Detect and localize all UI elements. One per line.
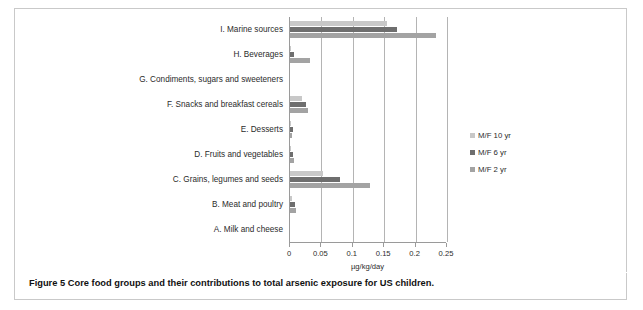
category-band xyxy=(290,92,446,117)
bar xyxy=(290,108,308,113)
axis-tick xyxy=(352,243,353,247)
category-label: E. Desserts xyxy=(25,125,283,134)
bar xyxy=(290,146,291,151)
legend-label: M/F 10 yr xyxy=(478,131,511,140)
category-band xyxy=(290,217,446,242)
axis-tick xyxy=(446,243,447,247)
category-label: D. Fruits and vegetables xyxy=(25,150,283,159)
axis-tick-label: 0.25 xyxy=(439,249,454,258)
category-band xyxy=(290,42,446,67)
bar xyxy=(290,171,323,176)
bar xyxy=(290,202,295,207)
axis-tick-label: 0.15 xyxy=(376,249,391,258)
chart-area: I. Marine sourcesH. BeveragesG. Condimen… xyxy=(15,9,628,267)
caption-text: Core food groups and their contributions… xyxy=(68,278,434,288)
bar xyxy=(290,208,296,213)
axis-tick xyxy=(415,243,416,247)
axis-title: µg/kg/day xyxy=(289,262,446,271)
bar xyxy=(290,183,370,188)
category-band xyxy=(290,192,446,217)
bar xyxy=(290,27,397,32)
legend-item: M/F 10 yr xyxy=(470,127,590,144)
figure-frame: I. Marine sourcesH. BeveragesG. Condimen… xyxy=(14,8,627,300)
figure-caption: Figure 5 Core food groups and their cont… xyxy=(29,277,614,289)
legend-swatch-icon xyxy=(470,167,475,172)
legend-swatch-icon xyxy=(470,133,475,138)
category-label: I. Marine sources xyxy=(25,25,283,34)
caption-divider xyxy=(15,272,628,273)
bar xyxy=(290,152,293,157)
bar xyxy=(290,127,293,132)
chart-legend: M/F 10 yrM/F 6 yrM/F 2 yr xyxy=(470,127,590,178)
bar xyxy=(290,158,294,163)
value-axis: 00.050.10.150.20.25 xyxy=(289,242,446,251)
axis-tick xyxy=(289,243,290,247)
legend-item: M/F 2 yr xyxy=(470,161,590,178)
category-label: G. Condiments, sugars and sweeteners xyxy=(25,75,283,84)
bar xyxy=(290,33,436,38)
plot-area xyxy=(289,17,446,242)
bar xyxy=(290,102,306,107)
legend-label: M/F 2 yr xyxy=(478,165,507,174)
axis-tick-label: 0 xyxy=(287,249,291,258)
category-label: H. Beverages xyxy=(25,50,283,59)
axis-tick-label: 0.05 xyxy=(313,249,328,258)
category-band xyxy=(290,117,446,142)
bar xyxy=(290,52,294,57)
bar xyxy=(290,177,340,182)
axis-tick xyxy=(383,243,384,247)
axis-tick-label: 0.2 xyxy=(409,249,420,258)
category-band xyxy=(290,67,446,92)
bar xyxy=(290,46,291,51)
axis-tick xyxy=(320,243,321,247)
legend-item: M/F 6 yr xyxy=(470,144,590,161)
bar xyxy=(290,133,292,138)
legend-label: M/F 6 yr xyxy=(478,148,507,157)
bar xyxy=(290,196,292,201)
bar xyxy=(290,121,291,126)
legend-swatch-icon xyxy=(470,150,475,155)
category-label: B. Meat and poultry xyxy=(25,200,283,209)
category-band xyxy=(290,167,446,192)
category-label: F. Snacks and breakfast cereals xyxy=(25,100,283,109)
category-label: C. Grains, legumes and seeds xyxy=(25,175,283,184)
gridline xyxy=(447,17,448,242)
category-band xyxy=(290,17,446,42)
category-label: A. Milk and cheese xyxy=(25,225,283,234)
category-band xyxy=(290,142,446,167)
bar xyxy=(290,21,387,26)
axis-tick-label: 0.1 xyxy=(347,249,358,258)
bar xyxy=(290,96,302,101)
category-axis: I. Marine sourcesH. BeveragesG. Condimen… xyxy=(25,17,287,242)
bar xyxy=(290,58,310,63)
caption-label: Figure 5 xyxy=(29,278,65,288)
